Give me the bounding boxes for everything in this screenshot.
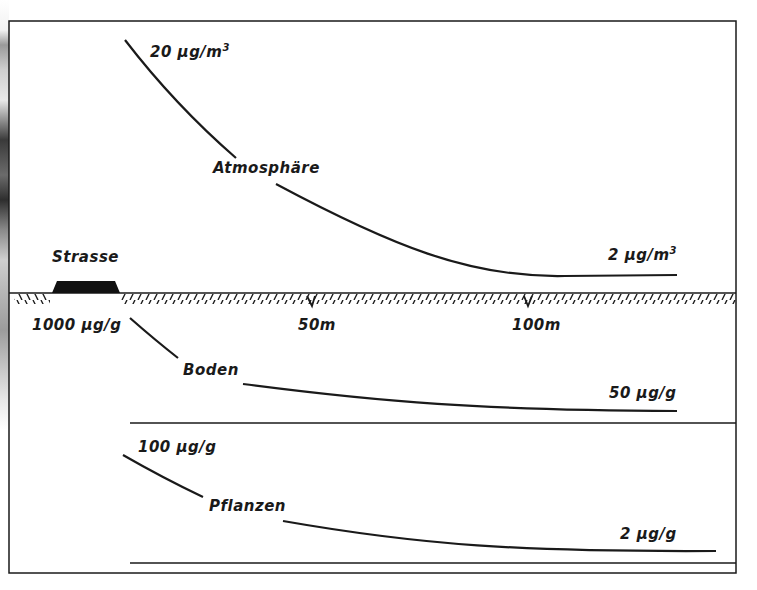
atmosphere-label: Atmosphäre [213, 159, 320, 177]
atmosphere-start-value: 20 µg/m3 [150, 42, 230, 61]
curve-pflanzen-upper [123, 455, 203, 497]
boden-end-value: 50 µg/g [609, 384, 677, 402]
pflanzen-start-value: 100 µg/g [138, 438, 217, 456]
atmosphere-start-value-sup: 3 [222, 42, 229, 53]
atmosphere-end-value-sup: 3 [670, 245, 677, 256]
road-shape [52, 281, 120, 293]
tick-label-50m: 50m [298, 316, 336, 334]
atmosphere-end-value-text: 2 µg/m [608, 246, 670, 264]
boden-label: Boden [183, 361, 239, 379]
ground-hatch-left [14, 294, 50, 304]
atmosphere-start-value-text: 20 µg/m [150, 43, 222, 61]
pflanzen-end-value: 2 µg/g [620, 525, 677, 543]
atmosphere-end-value: 2 µg/m3 [608, 245, 677, 264]
ground-hatch-right [120, 294, 736, 304]
road-label: Strasse [52, 248, 119, 266]
boden-start-value: 1000 µg/g [32, 316, 121, 334]
diagram-canvas [0, 0, 757, 590]
tick-label-100m: 100m [512, 316, 561, 334]
pflanzen-label: Pflanzen [209, 497, 286, 515]
curve-boden-upper [130, 318, 178, 358]
